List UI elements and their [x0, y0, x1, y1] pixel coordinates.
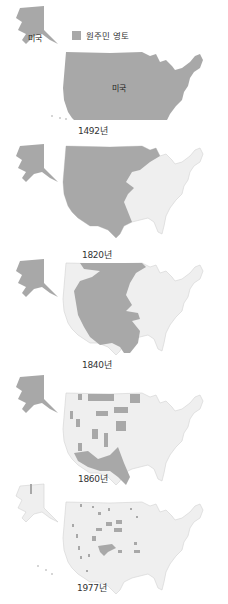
map-panel-1820: 1820년 [0, 140, 228, 260]
mainland-label: 미국 [112, 82, 126, 93]
map-panel-1977: 1977년 [0, 478, 228, 604]
legend-label: 원주민 영토 [86, 29, 129, 41]
us-map-1820 [0, 140, 228, 260]
year-label: 1840년 [82, 358, 111, 371]
year-label: 1492년 [78, 124, 107, 137]
legend: 원주민 영토 [72, 29, 129, 41]
legend-swatch [72, 31, 81, 40]
us-map-1492 [0, 0, 228, 120]
map-panel-1840: 1840년 [0, 255, 228, 375]
us-map-1860 [0, 375, 228, 490]
map-panel-1860: 1860년 [0, 375, 228, 490]
us-map-1840 [0, 255, 228, 375]
map-panel-1492: 미국 미국 원주민 영토 1492년 [0, 0, 228, 120]
year-label: 1977년 [77, 581, 106, 594]
us-map-1977 [0, 478, 228, 604]
alaska-label: 미국 [28, 32, 42, 43]
